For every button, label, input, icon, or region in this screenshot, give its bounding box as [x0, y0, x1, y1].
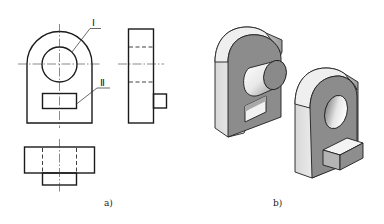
- isometric-part-boss: [215, 27, 290, 137]
- panel-a-orthographic: Ⅰ Ⅱ a): [18, 17, 167, 208]
- top-view: [25, 139, 95, 192]
- callout-I-label: Ⅰ: [92, 17, 95, 28]
- side-protrusion: [154, 94, 167, 108]
- isometric-part-hole: [295, 68, 363, 178]
- panel-b-isometric: b): [215, 27, 363, 208]
- callout-II-label: Ⅱ: [100, 77, 105, 88]
- panel-b-label: b): [273, 198, 282, 208]
- side-view: [118, 29, 167, 123]
- panel-a-label: a): [104, 198, 113, 208]
- front-view: Ⅰ Ⅱ: [18, 17, 110, 128]
- side-view-outline: [129, 29, 154, 123]
- leader-line-I: [72, 29, 101, 53]
- engineering-drawing: Ⅰ Ⅱ a): [0, 0, 384, 224]
- leader-line-II: [77, 88, 111, 104]
